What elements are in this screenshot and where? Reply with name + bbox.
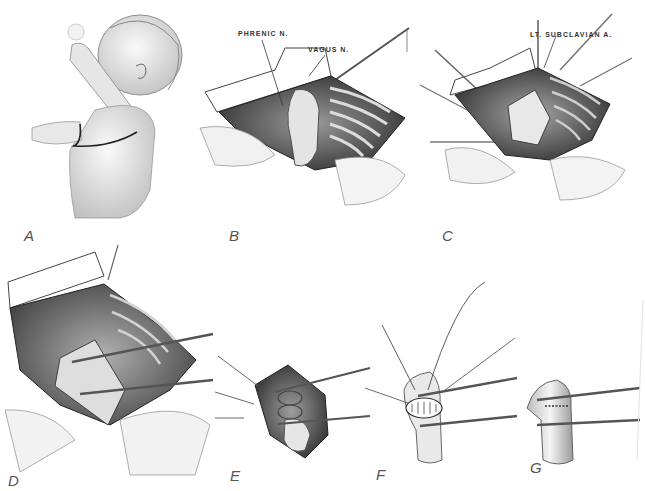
panel-label-f: F [376, 467, 385, 482]
annotation-phrenic-nerve: PHRENIC N. [238, 30, 288, 37]
panel-label-b: B [229, 228, 239, 243]
panel-a: A [0, 0, 210, 250]
panel-c: LT. SUBCLAVIAN A. C [420, 0, 645, 250]
panel-label-e: E [230, 468, 240, 483]
annotation-vagus-nerve: VAGUS N. [308, 46, 349, 53]
infant-illustration [0, 0, 210, 230]
coarctation-resection-illustration [210, 320, 375, 470]
panel-d: D [0, 240, 215, 491]
panel-e: E [210, 320, 375, 491]
panel-label-g: G [530, 460, 542, 475]
completed-repair-illustration [525, 280, 645, 470]
panel-g: G [525, 280, 645, 491]
annotation-left-subclavian-artery: LT. SUBCLAVIAN A. [530, 31, 612, 38]
anastomosis-illustration [360, 280, 525, 470]
panel-b: PHRENIC N. VAGUS N. B [195, 0, 425, 250]
panel-label-d: D [8, 473, 19, 488]
panel-f: F [360, 280, 525, 491]
clamps-applied-illustration [0, 240, 215, 475]
thoracic-exposure-illustration [195, 0, 425, 225]
panel-label-c: C [442, 228, 453, 243]
